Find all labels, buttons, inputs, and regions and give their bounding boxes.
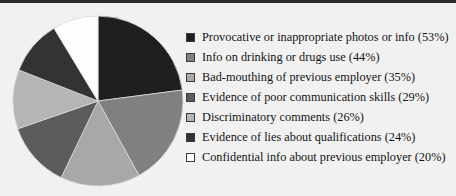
- legend-item-label: Provocative or inappropriate photos or i…: [202, 27, 449, 47]
- legend-item-label: Info on drinking or drugs use (44%): [202, 47, 380, 67]
- pie-chart-plot-area: [8, 11, 188, 191]
- legend-item-label: Confidential info about previous employe…: [202, 147, 446, 167]
- pie-slice[interactable]: [98, 16, 182, 101]
- legend-item[interactable]: Evidence of poor communication skills (2…: [186, 87, 452, 107]
- legend-item[interactable]: Info on drinking or drugs use (44%): [186, 47, 452, 67]
- legend-swatch-icon: [186, 113, 195, 122]
- pie-chart-svg: [8, 11, 188, 191]
- legend-swatch-icon: [186, 53, 195, 62]
- legend-item[interactable]: Discriminatory comments (26%): [186, 107, 452, 127]
- pie-chart-figure: Provocative or inappropriate photos or i…: [0, 3, 456, 196]
- legend-item-label: Bad-mouthing of previous employer (35%): [202, 67, 415, 87]
- legend-swatch-icon: [186, 73, 195, 82]
- legend-item-label: Evidence of lies about qualifications (2…: [202, 127, 415, 147]
- legend-item[interactable]: Evidence of lies about qualifications (2…: [186, 127, 452, 147]
- legend-swatch-icon: [186, 93, 195, 102]
- legend-swatch-icon: [186, 133, 195, 142]
- pie-slice-group: [13, 16, 183, 186]
- legend-item-label: Discriminatory comments (26%): [202, 107, 364, 127]
- legend-item[interactable]: Confidential info about previous employe…: [186, 147, 452, 167]
- legend-item[interactable]: Provocative or inappropriate photos or i…: [186, 27, 452, 47]
- legend-swatch-icon: [186, 33, 195, 42]
- legend-swatch-icon: [186, 153, 195, 162]
- legend-item[interactable]: Bad-mouthing of previous employer (35%): [186, 67, 452, 87]
- legend-item-label: Evidence of poor communication skills (2…: [202, 87, 429, 107]
- chart-legend: Provocative or inappropriate photos or i…: [186, 27, 452, 167]
